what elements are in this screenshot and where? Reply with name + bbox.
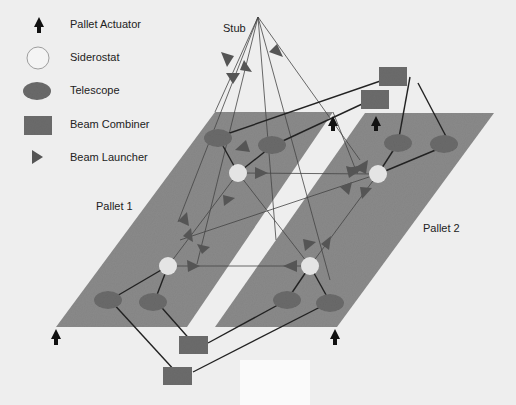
pallet-1-label: Pallet 1 xyxy=(96,200,133,212)
pallet-2-label: Pallet 2 xyxy=(423,222,460,234)
telescope-icon xyxy=(273,291,301,309)
telescope-icon xyxy=(94,291,122,309)
pallet-actuator-icon xyxy=(34,17,44,33)
beam-launcher-icon xyxy=(32,150,43,164)
legend-icons xyxy=(23,17,52,164)
telescope-icon xyxy=(23,82,51,100)
beam-combiner-icon xyxy=(179,336,208,354)
siderostat-icon xyxy=(301,257,319,275)
beam-launcher-icon xyxy=(269,44,283,57)
legend-label-beam-launcher: Beam Launcher xyxy=(70,151,148,163)
siderostat-icon xyxy=(27,47,49,69)
legend-label-telescope: Telescope xyxy=(70,84,120,96)
diagram-canvas: Pallet Actuator Siderostat Telescope Bea… xyxy=(0,0,516,405)
telescope-icon xyxy=(384,134,412,152)
siderostat-icon xyxy=(369,165,387,183)
beam-launcher-icon xyxy=(221,52,234,67)
siderostat-icon xyxy=(159,257,177,275)
beam-combiner-icon xyxy=(163,367,192,385)
beam-combiner-icon xyxy=(361,90,389,109)
telescope-icon xyxy=(139,293,167,311)
legend-label-pallet-actuator: Pallet Actuator xyxy=(70,18,141,30)
stub-label: Stub xyxy=(223,22,246,34)
beam-launcher-icon xyxy=(240,60,252,72)
telescope-icon xyxy=(430,135,458,153)
pallet-actuator-icon xyxy=(51,329,61,345)
telescope-icon xyxy=(258,136,286,154)
pallet-actuator-icon xyxy=(328,116,338,131)
legend-label-beam-combiner: Beam Combiner xyxy=(70,118,149,130)
legend-label-siderostat: Siderostat xyxy=(70,51,120,63)
pallet-actuator-icon xyxy=(330,329,340,345)
beam-combiner-icon xyxy=(379,67,407,86)
siderostat-icon xyxy=(229,164,247,182)
beam-combiner-icon xyxy=(24,116,52,135)
blank-patch xyxy=(240,360,310,405)
telescope-icon xyxy=(204,129,232,147)
telescope-icon xyxy=(316,294,344,312)
